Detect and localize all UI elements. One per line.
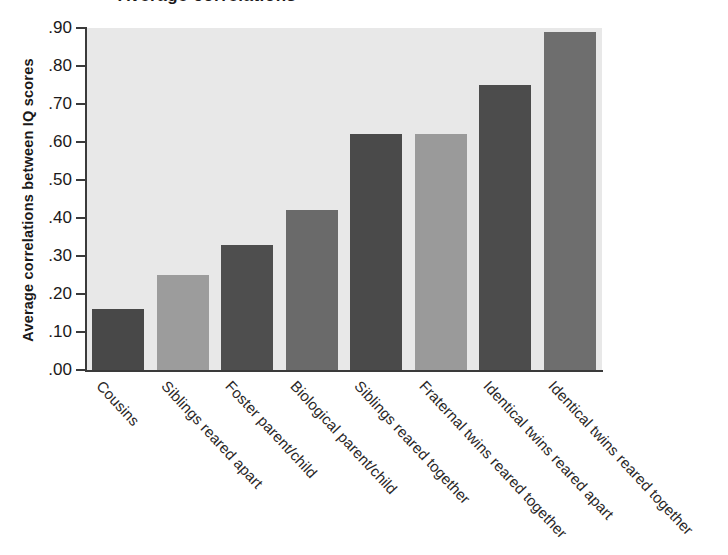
- y-tick-mark: [76, 179, 86, 181]
- y-tick-mark: [76, 293, 86, 295]
- x-category-label: Cousins: [94, 378, 142, 428]
- bar-chart: .90.80.70.60.50.40.30.20.10.00 Average c…: [0, 0, 728, 555]
- x-axis-category-labels: CousinsSiblings reared apartFoster paren…: [0, 372, 728, 555]
- bar: [479, 85, 531, 370]
- x-category-label: Biological parent/child: [288, 378, 400, 497]
- y-tick-mark: [76, 65, 86, 67]
- bar: [544, 32, 596, 370]
- y-axis-title: Average correlations between IQ scores: [20, 20, 36, 380]
- bar: [157, 275, 209, 370]
- bar: [350, 134, 402, 370]
- x-category-label: Identical twins reared apart: [481, 378, 617, 522]
- y-tick-mark: [76, 103, 86, 105]
- bar: [221, 245, 273, 370]
- x-category-label: Siblings reared together: [352, 378, 473, 506]
- y-tick-mark: [76, 141, 86, 143]
- bar: [286, 210, 338, 370]
- bar: [415, 134, 467, 370]
- bar: [92, 309, 144, 370]
- y-tick-mark: [76, 27, 86, 29]
- y-tick-mark: [76, 331, 86, 333]
- y-tick-mark: [76, 217, 86, 219]
- bars-layer: [86, 28, 602, 370]
- y-tick-mark: [76, 255, 86, 257]
- y-tick-mark: [76, 369, 86, 371]
